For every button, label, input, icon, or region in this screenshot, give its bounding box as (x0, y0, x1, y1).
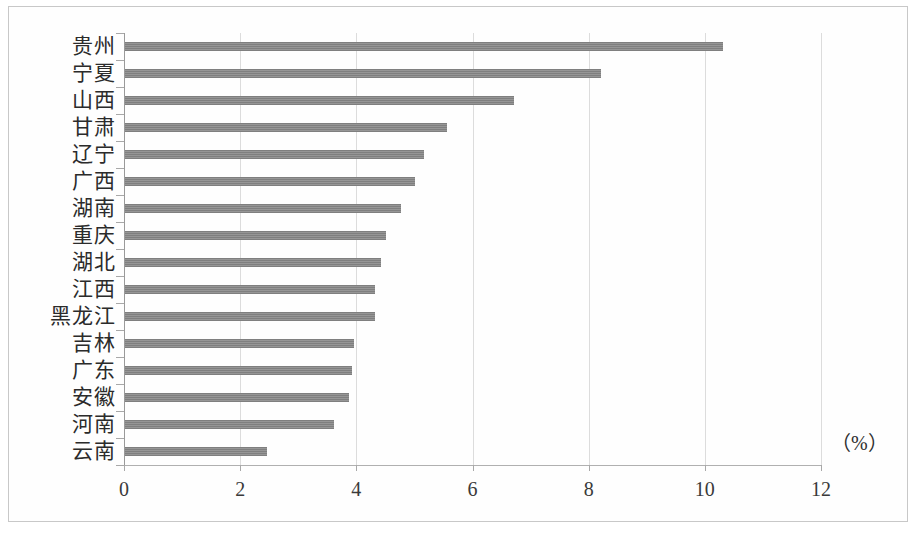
bar (125, 285, 375, 294)
bar (125, 258, 381, 267)
value-tick-label: 6 (443, 477, 503, 501)
value-tick-label: 10 (675, 477, 735, 501)
category-tick (116, 330, 124, 331)
bar (125, 339, 354, 348)
bar (125, 204, 401, 213)
value-tick-label: 4 (326, 477, 386, 501)
category-label: 黑龙江 (0, 305, 116, 328)
gridline-10 (705, 33, 706, 465)
category-label: 河南 (0, 413, 116, 436)
category-tick (116, 276, 124, 277)
category-tick (116, 60, 124, 61)
category-tick (116, 249, 124, 250)
value-tick-4 (356, 465, 357, 471)
category-tick (116, 384, 124, 385)
bar (125, 312, 375, 321)
chart-frame: 贵州宁夏山西甘肃辽宁广西湖南重庆湖北江西黑龙江吉林广东安徽河南云南 024681… (8, 6, 908, 522)
value-tick-8 (589, 465, 590, 471)
gridline-8 (589, 33, 590, 465)
category-label: 甘肃 (0, 116, 116, 139)
category-tick (116, 357, 124, 358)
bar (125, 231, 386, 240)
category-tick (116, 303, 124, 304)
category-tick (116, 411, 124, 412)
category-tick (116, 465, 124, 466)
category-axis-labels: 贵州宁夏山西甘肃辽宁广西湖南重庆湖北江西黑龙江吉林广东安徽河南云南 (0, 33, 116, 465)
category-label: 安徽 (0, 386, 116, 409)
category-tick (116, 168, 124, 169)
category-label: 云南 (0, 440, 116, 463)
category-label: 山西 (0, 89, 116, 112)
bar (125, 69, 601, 78)
category-label: 贵州 (0, 35, 116, 58)
category-label: 重庆 (0, 224, 116, 247)
value-axis-spine (124, 33, 125, 465)
gridline-12 (821, 33, 822, 465)
value-tick-2 (240, 465, 241, 471)
category-tick (116, 87, 124, 88)
category-tick (116, 33, 124, 34)
category-label: 广东 (0, 359, 116, 382)
category-tick (116, 195, 124, 196)
category-label: 辽宁 (0, 143, 116, 166)
category-label: 广西 (0, 170, 116, 193)
bar (125, 366, 352, 375)
value-tick-label: 0 (94, 477, 154, 501)
category-label: 吉林 (0, 332, 116, 355)
bar (125, 393, 349, 402)
plot-area: 贵州宁夏山西甘肃辽宁广西湖南重庆湖北江西黑龙江吉林广东安徽河南云南 024681… (124, 33, 821, 465)
category-label: 宁夏 (0, 62, 116, 85)
category-tick (116, 438, 124, 439)
category-tick (116, 141, 124, 142)
unit-annotation: （%） (831, 431, 888, 455)
bar (125, 150, 424, 159)
bar (125, 447, 267, 456)
category-label: 湖北 (0, 251, 116, 274)
value-tick-10 (705, 465, 706, 471)
value-tick-6 (473, 465, 474, 471)
value-tick-12 (821, 465, 822, 471)
value-tick-label: 8 (559, 477, 619, 501)
value-tick-label: 2 (210, 477, 270, 501)
bar (125, 420, 334, 429)
bar (125, 177, 415, 186)
category-tick (116, 114, 124, 115)
bar (125, 123, 447, 132)
bar (125, 96, 514, 105)
category-label: 湖南 (0, 197, 116, 220)
bar (125, 42, 723, 51)
value-tick-label: 12 (791, 477, 851, 501)
category-tick (116, 222, 124, 223)
value-tick-0 (124, 465, 125, 471)
category-label: 江西 (0, 278, 116, 301)
